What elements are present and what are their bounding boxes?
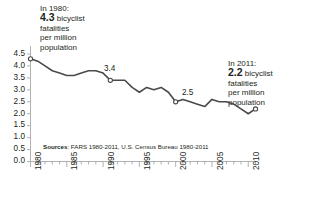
y-axis-tick-label: 0.0 — [3, 156, 25, 165]
y-axis-tick-label: 4.0 — [3, 61, 25, 70]
x-axis-tick-label: 2010 — [252, 151, 261, 169]
y-axis-tick-label: 3.5 — [3, 73, 25, 82]
y-axis-tick-label: 1.0 — [3, 132, 25, 141]
x-axis-tick-label: 1995 — [143, 151, 152, 169]
x-axis-tick-label: 2000 — [179, 151, 188, 169]
data-point-marker — [28, 57, 32, 61]
data-point-marker — [253, 107, 257, 111]
chart-plot — [0, 0, 310, 202]
y-axis-tick-label: 4.5 — [3, 49, 25, 58]
y-axis-tick-label: 1.5 — [3, 120, 25, 129]
data-point-marker — [108, 78, 112, 82]
y-axis-tick-label: 3.0 — [3, 85, 25, 94]
x-axis-tick-label: 1980 — [34, 151, 43, 169]
x-axis-tick-label: 2005 — [216, 151, 225, 169]
data-point-marker — [174, 100, 178, 104]
y-axis-tick-label: 2.0 — [3, 109, 25, 118]
data-line — [31, 59, 256, 114]
x-axis-tick-label: 1985 — [70, 151, 79, 169]
y-axis-tick-label: 0.5 — [3, 144, 25, 153]
x-axis-tick-label: 1990 — [107, 151, 116, 169]
y-axis-tick-label: 2.5 — [3, 97, 25, 106]
chart-container: In 1980: 4.3 bicyclist fatalities per mi… — [0, 0, 310, 202]
